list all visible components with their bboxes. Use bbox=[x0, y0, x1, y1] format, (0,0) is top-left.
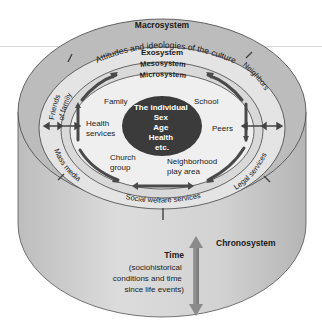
individual-line-3: Age bbox=[153, 123, 169, 132]
micro-item-health-services: Health services bbox=[86, 119, 115, 138]
micro-item-school: School bbox=[194, 97, 219, 106]
time-label: Time bbox=[164, 250, 184, 260]
micro-item-family: Family bbox=[104, 97, 128, 106]
micro-item-peers: Peers bbox=[212, 124, 233, 133]
individual-line-1: The individual bbox=[134, 103, 188, 112]
macrosystem-label: Macrosystem bbox=[135, 20, 190, 30]
ecological-systems-diagram: The individual Sex Age Health etc. Macro… bbox=[0, 0, 322, 330]
chronosystem-label: Chronosystem bbox=[216, 238, 276, 248]
individual-line-5: etc. bbox=[155, 143, 169, 152]
exosystem-label: Exosystem bbox=[141, 48, 183, 57]
individual-line-2: Sex bbox=[154, 113, 169, 122]
individual-line-4: Health bbox=[149, 133, 174, 142]
